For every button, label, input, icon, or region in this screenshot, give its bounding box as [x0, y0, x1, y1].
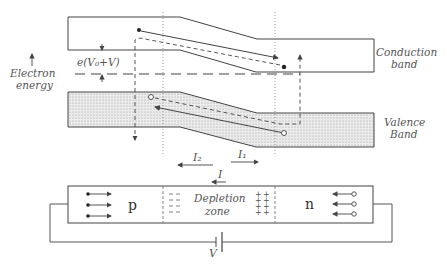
electron-dot	[137, 28, 141, 32]
current-i2-label: I₂	[192, 151, 202, 164]
svg-text:+: +	[263, 208, 270, 217]
electron-energy-label-1: Electron	[9, 67, 56, 79]
svg-text:+: +	[255, 208, 262, 217]
barrier-label: e(V₀+V)	[77, 56, 120, 68]
p-region-label: p	[128, 197, 137, 213]
hole-dot	[282, 131, 287, 136]
electron-dot	[282, 65, 286, 69]
electron-energy-label-2: energy	[16, 79, 54, 91]
current-i1-label: I₁	[237, 148, 247, 161]
conduction-band-label-2: band	[391, 58, 418, 70]
valence-band-label-2: Band	[389, 128, 418, 140]
conduction-band-label-1: Conduction	[376, 46, 437, 58]
positive-ions: ++ ++ ++ ++	[255, 190, 270, 217]
pn-junction-diagram: e(V₀+V) Electron energy Conduction band …	[0, 0, 447, 270]
depletion-zone-label-1: Depletion	[193, 192, 246, 204]
battery-label: V	[209, 247, 218, 260]
hole-dot	[149, 95, 154, 100]
n-region-label: n	[305, 196, 314, 212]
valence-band-label-1: Valence	[384, 116, 425, 128]
valence-band	[68, 92, 374, 147]
depletion-zone-label-2: zone	[204, 205, 230, 217]
current-i-label: I	[217, 168, 223, 181]
